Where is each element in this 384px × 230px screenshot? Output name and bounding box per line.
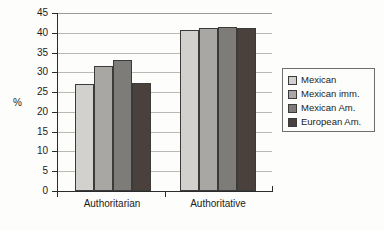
x-axis-category-label-1: Authoritative xyxy=(168,198,268,210)
y-axis-tick-label-30: 30 xyxy=(22,67,48,77)
x-axis-category-divider-tick xyxy=(165,191,166,197)
bar-authoritative-mexican xyxy=(180,30,199,191)
y-axis-tick-label-35: 35 xyxy=(22,48,48,58)
y-axis-tick-label-45: 45 xyxy=(22,8,48,18)
x-axis-category-label-0: Authoritarian xyxy=(62,198,162,210)
bar-authoritative-european-am xyxy=(237,28,256,191)
legend-swatch-icon-3 xyxy=(288,118,297,127)
y-axis-title: % xyxy=(13,97,22,108)
legend-item-label: Mexican imm. xyxy=(301,89,360,99)
legend-item-1[interactable]: Mexican imm. xyxy=(288,87,374,101)
bar-authoritarian-mexican xyxy=(75,84,94,191)
x-axis-left-tick xyxy=(57,191,58,197)
chart-legend: MexicanMexican imm.Mexican Am.European A… xyxy=(282,68,375,132)
legend-item-0[interactable]: Mexican xyxy=(288,73,374,87)
legend-item-label: European Am. xyxy=(301,117,361,127)
legend-swatch-icon-2 xyxy=(288,104,297,113)
legend-item-2[interactable]: Mexican Am. xyxy=(288,101,374,115)
bar-authoritative-mexican-am xyxy=(218,27,237,191)
legend-item-label: Mexican Am. xyxy=(301,103,355,113)
bar-authoritarian-mexican-am xyxy=(113,60,132,191)
plot-area xyxy=(57,13,272,191)
y-axis-tick-label-10: 10 xyxy=(22,146,48,156)
bar-authoritarian-mexican-imm xyxy=(94,66,113,191)
y-axis-tick-label-40: 40 xyxy=(22,28,48,38)
bar-authoritative-mexican-imm xyxy=(199,28,218,191)
y-axis-tick-label-20: 20 xyxy=(22,107,48,117)
bar-authoritarian-european-am xyxy=(132,83,151,191)
legend-item-label: Mexican xyxy=(301,75,336,85)
legend-swatch-icon-1 xyxy=(288,90,297,99)
y-axis-tick-label-0: 0 xyxy=(22,186,48,196)
legend-swatch-icon-0 xyxy=(288,76,297,85)
y-axis-tick-label-15: 15 xyxy=(22,127,48,137)
legend-item-3[interactable]: European Am. xyxy=(288,115,374,129)
y-axis-tick-label-5: 5 xyxy=(22,166,48,176)
y-axis-tick-label-25: 25 xyxy=(22,87,48,97)
bar-chart-figure: % 051015202530354045 Authoritarian Autho… xyxy=(0,0,384,230)
x-axis-right-tick xyxy=(272,186,273,192)
